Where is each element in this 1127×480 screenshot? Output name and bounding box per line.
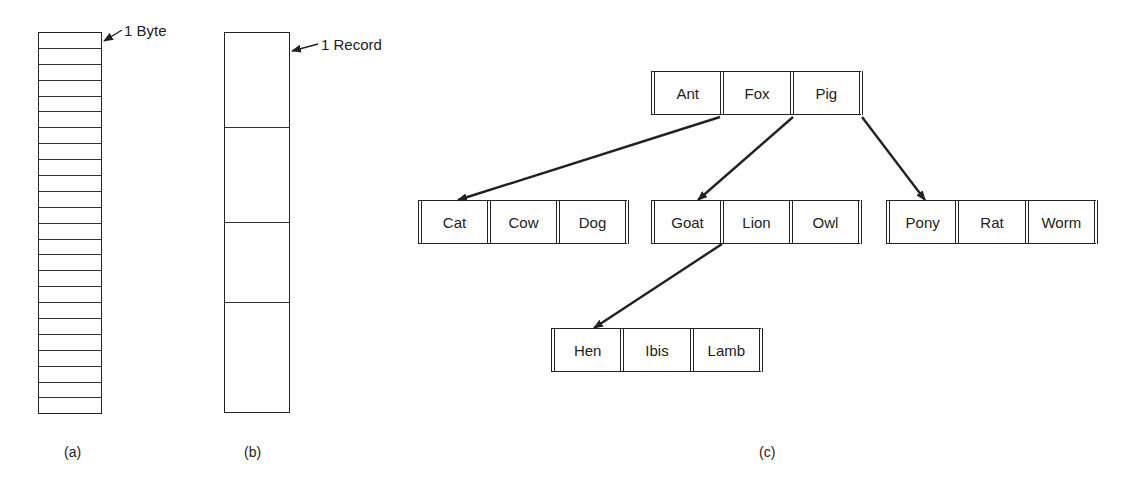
arrows-layer bbox=[0, 0, 1127, 480]
record-pointer-arrow bbox=[292, 44, 318, 51]
tree-arrow-root-to-left bbox=[458, 117, 720, 200]
tree-arrow-root-to-middle bbox=[698, 117, 793, 200]
byte-pointer-arrow bbox=[104, 30, 122, 41]
tree-arrow-middle-to-level2 bbox=[594, 244, 722, 328]
tree-arrow-root-to-right bbox=[862, 117, 925, 200]
